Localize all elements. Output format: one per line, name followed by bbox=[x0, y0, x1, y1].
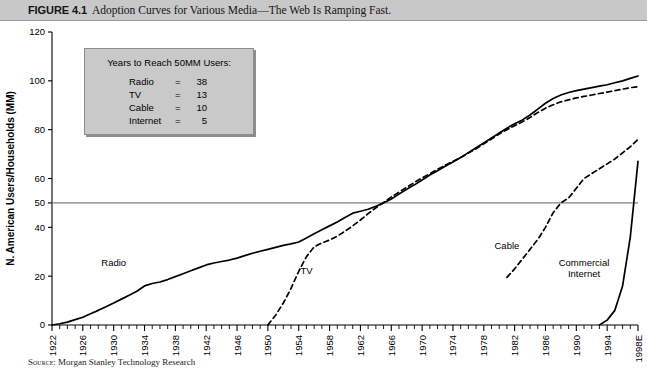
legend-row-equals: = bbox=[175, 101, 187, 114]
figure-number: FIGURE 4.1 bbox=[28, 4, 87, 16]
x-tick-label: 1994 bbox=[602, 335, 613, 356]
legend-row-equals: = bbox=[175, 114, 187, 127]
curve-label-tv: TV bbox=[300, 265, 313, 276]
y-tick-label: 20 bbox=[34, 271, 45, 282]
y-tick-label: 50 bbox=[34, 197, 45, 208]
x-tick-label: 1926 bbox=[77, 335, 88, 356]
figure-page: FIGURE 4.1Adoption Curves for Various Me… bbox=[0, 0, 647, 370]
legend-row-value: 38 bbox=[187, 75, 207, 88]
y-axis: 02040506080100120 bbox=[29, 26, 52, 330]
figure-caption-text: Adoption Curves for Various Media—The We… bbox=[87, 4, 391, 16]
x-tick-label: 1942 bbox=[201, 335, 212, 356]
x-tick-label: 1970 bbox=[417, 335, 428, 356]
x-tick-label: 1986 bbox=[540, 335, 551, 356]
x-tick-label: 1990 bbox=[571, 335, 582, 356]
y-axis-title: N. American Users/Households (MM) bbox=[5, 91, 16, 266]
source-label: Source: bbox=[28, 357, 56, 367]
x-tick-label: 1938 bbox=[170, 335, 181, 356]
legend-row: Internet=5 bbox=[129, 114, 207, 127]
figure-caption: FIGURE 4.1Adoption Curves for Various Me… bbox=[28, 2, 391, 18]
y-tick-label: 100 bbox=[29, 75, 45, 86]
x-tick-label: 1930 bbox=[108, 335, 119, 356]
y-tick-label: 40 bbox=[34, 222, 45, 233]
x-tick-label: 1958 bbox=[324, 335, 335, 356]
x-tick-label: 1954 bbox=[293, 335, 304, 356]
figure-caption-band: FIGURE 4.1Adoption Curves for Various Me… bbox=[0, 0, 647, 21]
y-tick-label: 0 bbox=[40, 319, 45, 330]
curve-label-cable: Cable bbox=[495, 240, 520, 251]
x-tick-label: 1946 bbox=[232, 335, 243, 356]
legend-row: Radio=38 bbox=[129, 75, 207, 88]
y-tick-label: 60 bbox=[34, 173, 45, 184]
legend-row-value: 13 bbox=[187, 88, 207, 101]
x-tick-label: 1962 bbox=[355, 335, 366, 356]
x-tick-label: 1934 bbox=[139, 335, 150, 356]
y-axis-title-text: N. American Users/Households (MM) bbox=[5, 91, 16, 266]
series-line-commercial-internet bbox=[599, 161, 638, 325]
x-tick-label: 1966 bbox=[386, 335, 397, 356]
series-line-tv bbox=[268, 87, 638, 325]
legend-row-equals: = bbox=[175, 88, 187, 101]
x-tick-label: 1922 bbox=[47, 335, 58, 356]
x-tick-label: 1974 bbox=[447, 335, 458, 356]
x-tick-label: 1982 bbox=[509, 335, 520, 356]
legend-row: TV=13 bbox=[129, 88, 207, 101]
x-tick-label: 1998E bbox=[633, 335, 644, 362]
legend-row-value: 5 bbox=[187, 114, 207, 127]
x-tick-label: 1978 bbox=[478, 335, 489, 356]
series-annotations: RadioTVCableCommercialInternet bbox=[101, 240, 609, 279]
y-tick-label: 80 bbox=[34, 124, 45, 135]
y-tick-label: 120 bbox=[29, 26, 45, 37]
source-text: Morgan Stanley Technology Research bbox=[58, 357, 195, 367]
legend-row-name: TV bbox=[129, 88, 175, 101]
curve-label-radio: Radio bbox=[101, 257, 126, 268]
legend-box: Years to Reach 50MM Users: Radio=38TV=13… bbox=[84, 48, 254, 135]
legend-row: Cable=10 bbox=[129, 101, 207, 114]
legend-row-name: Internet bbox=[129, 114, 175, 127]
legend-title: Years to Reach 50MM Users: bbox=[85, 57, 253, 68]
legend-row-name: Cable bbox=[129, 101, 175, 114]
x-tick-label: 1950 bbox=[262, 335, 273, 356]
legend-row-value: 10 bbox=[187, 101, 207, 114]
legend-row-equals: = bbox=[175, 75, 187, 88]
legend-rows: Radio=38TV=13Cable=10Internet=5 bbox=[129, 75, 207, 127]
legend-row-name: Radio bbox=[129, 75, 175, 88]
source-note: Source: Morgan Stanley Technology Resear… bbox=[28, 357, 195, 367]
curve-label-commercial-internet: Commercial bbox=[559, 257, 610, 268]
curve-label-commercial-internet: Internet bbox=[568, 268, 601, 279]
